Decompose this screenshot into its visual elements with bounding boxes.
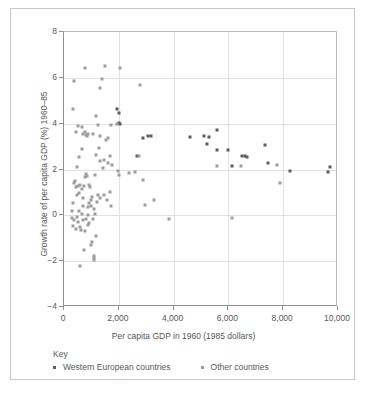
- data-point: [101, 166, 104, 169]
- x-axis-tick: [337, 306, 338, 310]
- data-point: [246, 155, 249, 158]
- y-axis-tick: [59, 214, 63, 215]
- data-point: [87, 133, 90, 136]
- data-point: [207, 135, 210, 138]
- data-point: [81, 126, 84, 129]
- data-point: [118, 112, 121, 115]
- x-axis-tick: [173, 306, 174, 310]
- y-axis-tick-label: 6: [37, 72, 57, 82]
- data-point: [279, 181, 282, 184]
- data-point: [329, 166, 332, 169]
- legend-item-western-european[interactable]: Western European countries: [53, 362, 171, 372]
- legend: Key Western European countries Other cou…: [53, 349, 269, 372]
- data-point: [106, 199, 109, 202]
- x-axis-tick-label: 10,000: [324, 313, 350, 323]
- data-point: [264, 144, 267, 147]
- data-point: [116, 108, 119, 111]
- legend-entries: Western European countries Other countri…: [53, 362, 269, 372]
- legend-title: Key: [53, 349, 269, 359]
- data-point: [95, 201, 98, 204]
- data-point: [79, 229, 82, 232]
- x-axis-tick-label: 6,000: [217, 313, 238, 323]
- data-point: [95, 154, 98, 157]
- data-point: [76, 165, 79, 168]
- data-point: [150, 134, 153, 137]
- data-point: [230, 216, 233, 219]
- gridline-horizontal: [64, 78, 336, 79]
- data-point: [100, 77, 103, 80]
- x-axis-tick: [227, 306, 228, 310]
- data-point: [103, 193, 106, 196]
- data-point: [95, 115, 98, 118]
- data-point: [288, 169, 291, 172]
- data-point: [89, 185, 92, 188]
- data-point: [84, 217, 87, 220]
- data-point: [92, 218, 95, 221]
- data-point: [74, 227, 77, 230]
- data-point: [153, 199, 156, 202]
- x-axis-tick: [118, 306, 119, 310]
- data-point: [119, 67, 122, 70]
- x-axis-tick: [63, 306, 64, 310]
- gridline-vertical: [174, 32, 175, 305]
- data-point: [168, 217, 171, 220]
- data-point: [109, 155, 112, 158]
- data-point: [267, 162, 270, 165]
- data-point: [82, 248, 85, 251]
- data-point: [189, 135, 192, 138]
- data-point: [98, 135, 101, 138]
- data-point: [76, 221, 79, 224]
- y-axis-tick: [59, 123, 63, 124]
- data-point: [90, 198, 93, 201]
- data-point: [107, 136, 110, 139]
- data-point: [72, 80, 75, 83]
- data-point: [80, 148, 83, 151]
- data-point: [81, 205, 84, 208]
- data-point: [93, 174, 96, 177]
- y-axis-tick-label: 0: [37, 209, 57, 219]
- data-point: [98, 146, 101, 149]
- plot-area: [63, 31, 337, 306]
- y-axis-tick: [59, 306, 63, 307]
- data-point: [98, 86, 101, 89]
- data-point: [110, 204, 113, 207]
- data-point: [90, 204, 93, 207]
- data-point: [128, 171, 131, 174]
- data-point: [72, 107, 75, 110]
- y-axis-tick-label: −2: [37, 255, 57, 265]
- gridline-vertical: [228, 32, 229, 305]
- data-point: [99, 196, 102, 199]
- data-point: [75, 215, 78, 218]
- data-point: [74, 131, 77, 134]
- x-axis-tick: [282, 306, 283, 310]
- data-point: [78, 192, 81, 195]
- data-point: [240, 164, 243, 167]
- data-point: [116, 123, 119, 126]
- data-point: [72, 182, 75, 185]
- data-point: [137, 155, 140, 158]
- data-point: [134, 171, 137, 174]
- legend-label-other: Other countries: [211, 362, 269, 372]
- legend-label-western-european: Western European countries: [63, 362, 171, 372]
- data-point: [216, 148, 219, 151]
- data-point: [275, 164, 278, 167]
- data-point: [99, 160, 102, 163]
- data-point: [230, 164, 233, 167]
- data-point: [94, 213, 97, 216]
- data-point: [240, 155, 243, 158]
- legend-item-other[interactable]: Other countries: [201, 362, 269, 372]
- data-point: [86, 213, 89, 216]
- data-point: [72, 202, 75, 205]
- data-point: [90, 241, 93, 244]
- y-axis-tick: [59, 77, 63, 78]
- x-axis-tick-label: 2,000: [107, 313, 128, 323]
- y-axis-tick: [59, 169, 63, 170]
- data-point: [206, 142, 209, 145]
- data-point: [139, 83, 142, 86]
- gridline-vertical: [283, 32, 284, 305]
- data-point: [104, 65, 107, 68]
- data-point: [109, 190, 112, 193]
- gridline-horizontal: [64, 124, 336, 125]
- data-point: [77, 125, 80, 128]
- data-point: [95, 234, 98, 237]
